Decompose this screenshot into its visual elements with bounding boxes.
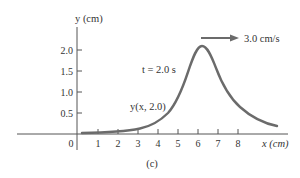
svg-text:2: 2 — [116, 138, 121, 149]
svg-text:4: 4 — [156, 138, 161, 149]
y-tick-labels: 0.5 1.0 1.5 2.0 — [61, 45, 74, 119]
wave-pulse-figure: 0.5 1.0 1.5 2.0 1 2 3 4 5 6 7 8 0 y (cm)… — [0, 0, 300, 178]
svg-text:6: 6 — [196, 138, 201, 149]
time-label: t = 2.0 s — [142, 64, 176, 75]
velocity-arrow — [201, 35, 239, 42]
y-axis-title: y (cm) — [75, 13, 103, 25]
figure-caption: (c) — [146, 158, 158, 170]
x-tick-labels: 1 2 3 4 5 6 7 8 — [96, 138, 241, 149]
y-ticks — [77, 50, 82, 113]
origin-label: 0 — [69, 138, 74, 149]
wave-pulse-curve — [82, 46, 277, 133]
svg-text:0.5: 0.5 — [61, 108, 74, 119]
velocity-label: 3.0 cm/s — [244, 33, 280, 44]
curve-label: y(x, 2.0) — [130, 101, 166, 113]
svg-text:7: 7 — [216, 138, 221, 149]
svg-text:1: 1 — [96, 138, 101, 149]
svg-text:1.0: 1.0 — [61, 87, 74, 98]
svg-text:3: 3 — [136, 138, 141, 149]
x-axis-title: x (cm) — [261, 138, 289, 150]
svg-text:1.5: 1.5 — [61, 66, 74, 77]
svg-text:8: 8 — [236, 138, 241, 149]
svg-text:5: 5 — [176, 138, 181, 149]
svg-text:2.0: 2.0 — [61, 45, 74, 56]
